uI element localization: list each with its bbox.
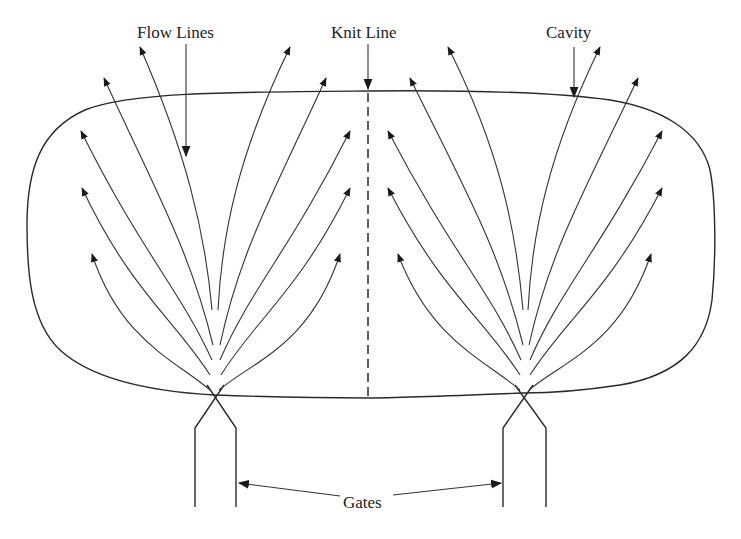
left-flow-fan <box>81 47 350 390</box>
gates-label: Gates <box>343 493 382 512</box>
mold-flow-diagram: Flow Lines Knit Line Cavity Gates <box>0 0 741 539</box>
flow-lines-callout: Flow Lines <box>137 23 214 156</box>
flow-lines-label: Flow Lines <box>137 23 214 42</box>
left-gate <box>195 385 236 507</box>
knit-line-callout: Knit Line <box>331 23 397 89</box>
right-flow-fan <box>388 47 662 390</box>
right-gate <box>503 385 546 507</box>
cavity-callout: Cavity <box>546 23 592 97</box>
cavity-outline <box>27 91 715 398</box>
gates-callout: Gates <box>239 483 501 512</box>
cavity-label: Cavity <box>546 23 592 42</box>
knit-line-label: Knit Line <box>331 23 397 42</box>
